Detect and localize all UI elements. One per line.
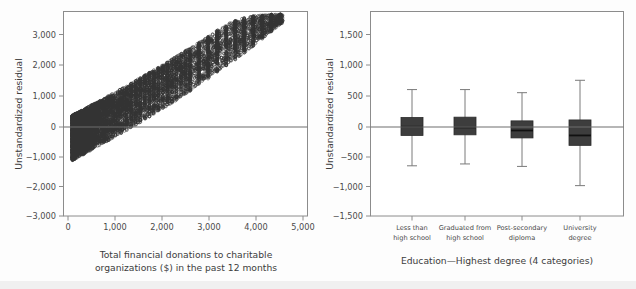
y-tick-label: 2,000 xyxy=(33,60,56,70)
x-axis-ticks xyxy=(412,216,580,221)
x-tick-label: 3,000 xyxy=(197,222,220,232)
y-tick-label: −1,000 xyxy=(26,152,56,162)
y-axis-title: Unstandardized residual xyxy=(324,58,335,169)
y-tick-label: 1,000 xyxy=(33,91,56,101)
y-tick-label: −500 xyxy=(341,152,364,162)
bottom-band xyxy=(0,281,636,289)
y-tick-label: −2,000 xyxy=(26,182,56,192)
y-tick-label: −1,000 xyxy=(333,182,363,192)
x-axis-title: Education—Highest degree (4 categories) xyxy=(401,255,593,266)
boxplot-svg: 1,500 1,000 500 0 −500 −1,000 −1,500 Les… xyxy=(318,0,636,289)
x-tick-label: 1,000 xyxy=(103,222,126,232)
scatter-svg: 3,000 2,000 1,000 0 −1,000 −2,000 −3,000 xyxy=(0,0,318,289)
figure-container: 3,000 2,000 1,000 0 −1,000 −2,000 −3,000 xyxy=(0,0,636,289)
x-axis-title-line2: organizations ($) in the past 12 months xyxy=(95,262,277,273)
category-label: University xyxy=(563,224,596,232)
x-axis-ticks xyxy=(68,216,303,221)
boxplot-plot-area: 1,500 1,000 500 0 −500 −1,000 −1,500 Les… xyxy=(324,12,624,267)
y-tick-label: 1,500 xyxy=(340,30,363,40)
category-label: high school xyxy=(446,234,484,242)
category-label: high school xyxy=(393,234,431,242)
y-tick-label: 1,000 xyxy=(340,60,363,70)
y-tick-label: −3,000 xyxy=(26,211,56,221)
x-tick-label: 4,000 xyxy=(244,222,267,232)
category-label: Graduated from xyxy=(439,224,492,232)
y-axis-title: Unstandardized residual xyxy=(13,58,24,169)
y-tick-label: −1,500 xyxy=(333,211,363,221)
boxplot-panel: 1,500 1,000 500 0 −500 −1,000 −1,500 Les… xyxy=(318,0,636,289)
category-label: degree xyxy=(568,234,591,242)
y-tick-label: 0 xyxy=(358,122,363,132)
y-axis-ticks xyxy=(59,35,64,217)
category-label: Less than xyxy=(396,224,428,232)
x-axis-title-line1: Total financial donations to charitable xyxy=(99,249,273,260)
plot-frame xyxy=(371,12,624,217)
y-tick-label: 3,000 xyxy=(33,30,56,40)
category-label: Post-secondary xyxy=(497,224,547,232)
x-tick-label: 2,000 xyxy=(150,222,173,232)
scatter-plot-area: 3,000 2,000 1,000 0 −1,000 −2,000 −3,000 xyxy=(13,12,315,274)
scatter-panel: 3,000 2,000 1,000 0 −1,000 −2,000 −3,000 xyxy=(0,0,318,289)
x-tick-label: 5,000 xyxy=(291,222,314,232)
y-tick-label: 500 xyxy=(347,91,363,101)
x-tick-label: 0 xyxy=(65,222,70,232)
y-axis-ticks xyxy=(366,35,371,217)
y-tick-label: 0 xyxy=(51,122,56,132)
category-label: diploma xyxy=(509,234,536,242)
